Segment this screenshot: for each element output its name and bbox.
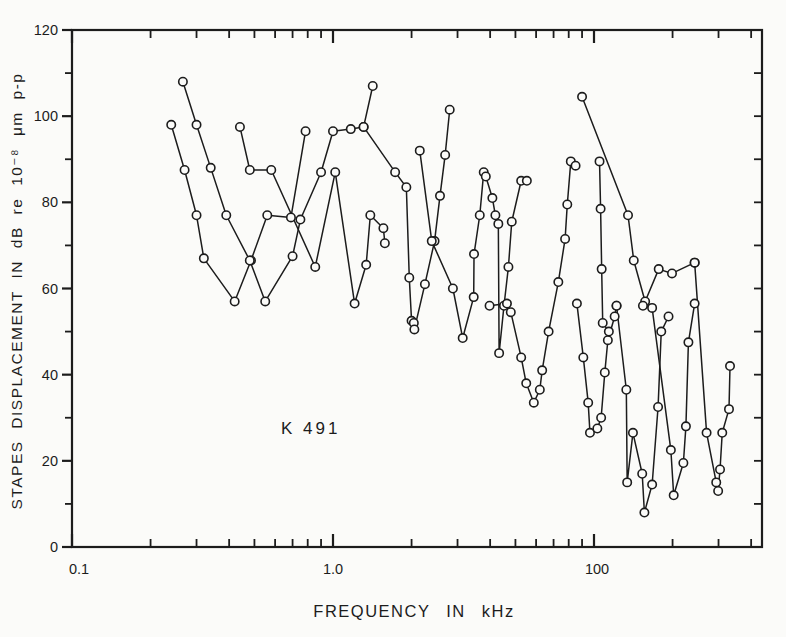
data-point-marker [638, 470, 646, 478]
data-point-marker [491, 211, 499, 219]
data-point-marker [648, 480, 656, 488]
data-point-marker [725, 405, 733, 413]
data-point-marker [504, 263, 512, 271]
data-point-marker [523, 177, 531, 185]
data-point-marker [391, 168, 399, 176]
data-point-marker [601, 368, 609, 376]
data-point-marker [421, 280, 429, 288]
data-point-marker [561, 235, 569, 243]
annotation-k491: K 491 [281, 419, 340, 439]
data-point-marker [507, 308, 515, 316]
data-point-marker [714, 487, 722, 495]
data-point-marker [610, 312, 618, 320]
data-point-marker [544, 327, 552, 335]
data-point-marker [485, 302, 493, 310]
y-tick-label: 80 [42, 194, 58, 210]
data-point-marker [623, 478, 631, 486]
data-point-marker [410, 325, 418, 333]
data-point-marker [563, 200, 571, 208]
x-tick-label: 1.0 [323, 561, 343, 577]
data-line-curve-4 [364, 110, 450, 330]
data-point-marker [597, 414, 605, 422]
data-point-marker [381, 239, 389, 247]
data-point-marker [503, 299, 511, 307]
data-point-marker [668, 269, 676, 277]
data-point-marker [446, 106, 454, 114]
data-point-marker [311, 263, 319, 271]
data-point-marker [640, 508, 648, 516]
data-point-marker [230, 297, 238, 305]
data-point-marker [679, 459, 687, 467]
data-point-marker [402, 183, 410, 191]
data-point-marker [263, 211, 271, 219]
data-point-marker [436, 192, 444, 200]
data-point-marker [246, 256, 254, 264]
data-point-marker [350, 299, 358, 307]
data-point-marker [571, 162, 579, 170]
data-point-marker [718, 429, 726, 437]
data-point-marker [530, 398, 538, 406]
data-point-marker [579, 353, 587, 361]
data-point-marker [522, 379, 530, 387]
data-point-marker [301, 127, 309, 135]
data-point-marker [712, 478, 720, 486]
data-point-marker [362, 261, 370, 269]
data-point-marker [288, 252, 296, 260]
data-point-marker [347, 125, 355, 133]
data-point-marker [469, 293, 477, 301]
x-tick-label: 0.1 [69, 561, 89, 577]
data-point-marker [296, 215, 304, 223]
y-tick-label: 0 [50, 539, 58, 555]
data-point-marker [536, 386, 544, 394]
data-point-marker [655, 265, 663, 273]
data-point-marker [584, 398, 592, 406]
data-point-marker [538, 366, 546, 374]
data-point-marker [682, 422, 690, 430]
data-point-marker [578, 93, 586, 101]
data-point-marker [416, 146, 424, 154]
data-line-curve-8 [577, 304, 617, 433]
x-tick-label: 100 [585, 561, 609, 577]
data-point-marker [366, 211, 374, 219]
data-point-marker [359, 123, 367, 131]
data-point-marker [494, 220, 502, 228]
data-point-marker [629, 429, 637, 437]
data-point-marker [716, 465, 724, 473]
data-point-marker [331, 168, 339, 176]
data-point-marker [639, 302, 647, 310]
data-point-marker [508, 218, 516, 226]
y-tick-label: 20 [42, 453, 58, 469]
data-point-marker [690, 258, 698, 266]
data-point-marker [517, 353, 525, 361]
data-point-marker [630, 256, 638, 264]
data-point-marker [624, 211, 632, 219]
plot-border [72, 30, 762, 547]
data-point-marker [222, 211, 230, 219]
data-point-marker [667, 446, 675, 454]
data-point-marker [179, 78, 187, 86]
data-point-marker [246, 166, 254, 174]
data-point-marker [458, 334, 466, 342]
data-point-marker [597, 265, 605, 273]
y-tick-label: 100 [34, 108, 58, 124]
data-point-marker [200, 254, 208, 262]
figure-root: STAPES DISPLACEMENT IN dB re 10⁻⁸ μm p-p… [0, 0, 786, 637]
data-point-marker [596, 205, 604, 213]
data-point-marker [482, 172, 490, 180]
data-point-marker [192, 211, 200, 219]
data-point-marker [449, 284, 457, 292]
data-point-marker [684, 338, 692, 346]
data-point-marker [726, 362, 734, 370]
data-point-marker [317, 168, 325, 176]
data-point-marker [470, 250, 478, 258]
data-point-marker [622, 386, 630, 394]
data-point-marker [267, 166, 275, 174]
data-point-marker [495, 349, 503, 357]
data-point-marker [428, 237, 436, 245]
data-point-marker [690, 299, 698, 307]
data-point-marker [657, 327, 665, 335]
data-point-marker [207, 164, 215, 172]
data-point-marker [595, 157, 603, 165]
data-point-marker [261, 297, 269, 305]
plot-area: 0204060801001200.11.0100 [0, 0, 786, 637]
